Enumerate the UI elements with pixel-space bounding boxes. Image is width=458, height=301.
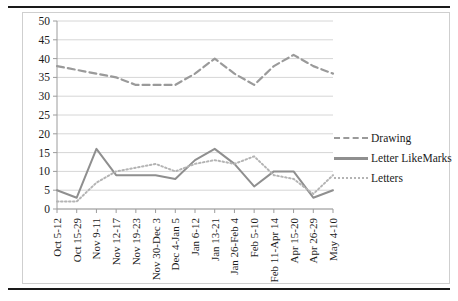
y-tick-label: 40: [39, 53, 51, 65]
bottom-rule: [8, 288, 450, 290]
x-tick-label: Feb 11-Apr 14: [268, 218, 280, 283]
y-tick-label: 20: [39, 128, 51, 140]
y-tick-label: 30: [39, 90, 51, 102]
x-tick-label: Jan 13-21: [209, 218, 221, 261]
y-tick-label: 5: [44, 184, 50, 196]
series-line-drawing: [57, 55, 333, 85]
series-line-letters: [57, 156, 333, 201]
figure-container: 05101520253035404550 Oct 5-12Oct 15-29No…: [0, 0, 458, 301]
x-tick-label: Nov 9-11: [90, 218, 102, 259]
legend-label-letters: Letters: [371, 172, 403, 184]
x-tick-label: Feb 5-10: [248, 218, 260, 258]
x-tick-label: Nov 12-17: [110, 218, 122, 266]
legend-item-drawing: Drawing: [334, 128, 454, 148]
x-tick-label: Apr 26-29: [307, 218, 319, 264]
x-tick-label: Nov 19-23: [130, 218, 142, 266]
top-rule: [8, 6, 450, 8]
legend-item-letters: Letters: [334, 168, 454, 188]
legend-swatch-solid-icon: [334, 153, 368, 163]
x-tick-label: Oct 15-29: [71, 218, 83, 263]
x-axis-ticks: [57, 209, 333, 213]
y-tick-label: 25: [39, 109, 51, 121]
legend-swatch-dotted-icon: [334, 173, 368, 183]
y-tick-label: 10: [39, 165, 51, 177]
legend-swatch-dashed-icon: [334, 133, 368, 143]
chart-legend: Drawing Letter LikeMarks Letters: [334, 128, 454, 188]
y-tick-label: 15: [39, 147, 51, 159]
y-tick-label: 50: [39, 15, 51, 27]
y-axis-tick-labels: 05101520253035404550: [39, 15, 51, 215]
legend-label-drawing: Drawing: [371, 132, 411, 144]
x-tick-label: Jan 6-12: [189, 218, 201, 256]
x-tick-label: Oct 5-12: [51, 218, 63, 257]
y-tick-label: 0: [44, 203, 50, 215]
y-tick-label: 45: [39, 34, 51, 46]
legend-label-letter-like-marks: Letter LikeMarks: [371, 152, 452, 164]
x-tick-label: Nov 30-Dec 3: [150, 218, 162, 281]
gridlines: [53, 21, 333, 209]
data-series: [57, 55, 333, 202]
x-tick-label: Dec 4-Jan 5: [169, 218, 181, 271]
legend-item-letter-like-marks: Letter LikeMarks: [334, 148, 454, 168]
y-tick-label: 35: [39, 71, 51, 83]
x-tick-label: May 4-10: [327, 218, 339, 262]
x-tick-label: Apr 15-20: [288, 218, 300, 264]
x-axis-tick-labels: Oct 5-12Oct 15-29Nov 9-11Nov 12-17Nov 19…: [51, 218, 339, 283]
x-tick-label: Jan 26-Feb 4: [228, 218, 240, 275]
